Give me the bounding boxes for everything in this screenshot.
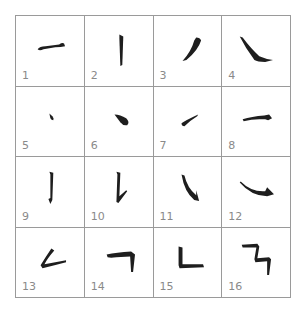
cell-14: 14 — [84, 227, 153, 298]
cell-label: 9 — [22, 211, 29, 222]
cell-label: 2 — [91, 70, 98, 81]
cell-label: 3 — [160, 70, 167, 81]
cell-label: 16 — [228, 281, 242, 292]
cell-label: 10 — [91, 211, 105, 222]
cell-13: 13 — [15, 227, 84, 298]
cell-3: 3 — [153, 15, 222, 86]
cell-9: 9 — [15, 156, 84, 227]
cell-15: 15 — [153, 227, 222, 298]
cell-label: 1 — [22, 70, 29, 81]
cell-label: 12 — [228, 211, 242, 222]
cell-7: 7 — [153, 86, 222, 157]
cell-label: 11 — [160, 211, 174, 222]
cell-label: 7 — [160, 140, 167, 151]
cell-4: 4 — [221, 15, 290, 86]
cell-11: 11 — [153, 156, 222, 227]
cell-label: 14 — [91, 281, 105, 292]
cell-10: 10 — [84, 156, 153, 227]
cell-12: 12 — [221, 156, 290, 227]
cell-8: 8 — [221, 86, 290, 157]
cell-16: 16 — [221, 227, 290, 298]
cell-label: 13 — [22, 281, 36, 292]
cell-label: 8 — [228, 140, 235, 151]
cell-label: 4 — [228, 70, 235, 81]
cell-2: 2 — [84, 15, 153, 86]
cell-label: 6 — [91, 140, 98, 151]
cell-label: 5 — [22, 140, 29, 151]
cell-6: 6 — [84, 86, 153, 157]
cell-label: 15 — [160, 281, 174, 292]
cell-5: 5 — [15, 86, 84, 157]
stroke-grid: 1 2 3 4 5 6 7 — [15, 15, 291, 298]
cell-1: 1 — [15, 15, 84, 86]
